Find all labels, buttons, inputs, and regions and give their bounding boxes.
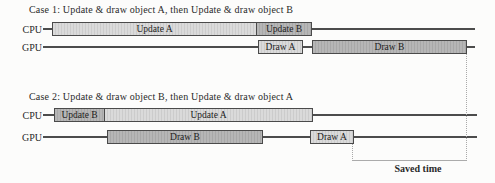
case1-draw-b-block: Draw B <box>312 40 467 54</box>
saved-time-bracket <box>352 160 466 161</box>
case2-draw-a-block: Draw A <box>310 130 354 144</box>
case2-update-b-block: Update B <box>54 108 105 122</box>
case2-gpu-label: GPU <box>15 132 42 143</box>
case2-draw-b-block: Draw B <box>107 130 263 144</box>
case2-cpu-label: CPU <box>15 110 42 121</box>
case1-draw-a-block: Draw A <box>258 40 303 54</box>
case1-gpu-label: GPU <box>15 42 42 53</box>
case2-update-a-block: Update A <box>104 108 313 122</box>
case1-end-guide-dotted-line <box>466 54 467 161</box>
case2-end-guide-dotted-line <box>352 144 353 161</box>
case1-update-a-block: Update A <box>52 22 257 36</box>
case1-cpu-label: CPU <box>15 24 42 35</box>
case2-title: Case 2: Update & draw object B, then Upd… <box>29 91 293 102</box>
case1-title: Case 1: Update & draw object A, then Upd… <box>29 4 293 15</box>
saved-time-label: Saved time <box>358 163 478 174</box>
case1-update-b-block: Update B <box>256 22 312 36</box>
cpu-gpu-timing-diagram: Case 1: Update & draw object A, then Upd… <box>0 0 495 183</box>
